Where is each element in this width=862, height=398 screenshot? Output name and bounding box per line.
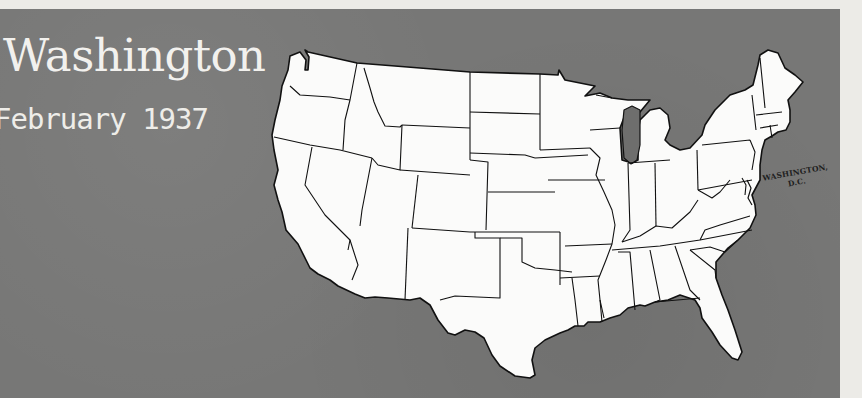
- us-map: [0, 0, 862, 398]
- us-outline: [272, 50, 803, 378]
